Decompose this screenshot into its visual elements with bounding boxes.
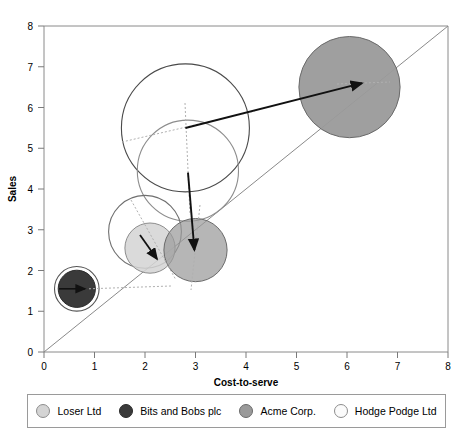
x-tick-5: 5 [294,361,300,372]
legend-label-acme-corp: Acme Corp. [260,405,315,417]
guide-bits-horizontal [89,286,171,289]
y-tick-8: 8 [27,21,33,32]
x-axis-tick-labels: 0 1 2 3 4 5 6 7 8 [41,361,451,372]
legend-swatch-circle-icon [119,404,133,418]
y-tick-7: 7 [27,62,33,73]
legend-item-loser-ltd[interactable]: Loser Ltd [36,404,101,418]
chart-canvas: 8 7 6 5 4 3 2 1 0 0 1 2 3 4 [0,0,471,438]
y-axis-title: Sales [7,175,18,202]
x-axis-title: Cost-to-serve [214,377,279,388]
legend-label-hodge-podge-ltd: Hodge Podge Ltd [355,405,437,417]
y-tick-5: 5 [27,143,33,154]
x-tick-4: 4 [243,361,249,372]
legend-swatch-circle-icon [334,404,348,418]
x-tick-1: 1 [92,361,98,372]
x-tick-2: 2 [142,361,148,372]
y-tick-1: 1 [27,306,33,317]
x-tick-0: 0 [41,361,47,372]
legend-swatch-circle-icon [36,404,50,418]
legend-item-acme-corp[interactable]: Acme Corp. [239,404,315,418]
y-axis-ticks [38,26,44,352]
legend-label-loser-ltd: Loser Ltd [57,405,101,417]
bubble-hodge-podge-lower[interactable] [137,120,238,221]
y-axis-tick-labels: 8 7 6 5 4 3 2 1 0 [27,21,33,358]
x-tick-6: 6 [344,361,350,372]
x-axis-ticks [44,352,448,358]
legend-box: Loser Ltd Bits and Bobs plc Acme Corp. H… [27,394,446,428]
y-tick-6: 6 [27,103,33,114]
y-tick-0: 0 [27,347,33,358]
legend-item-hodge-podge-ltd[interactable]: Hodge Podge Ltd [334,404,437,418]
legend-swatch-circle-icon [239,404,253,418]
bubble-chart-figure: 8 7 6 5 4 3 2 1 0 0 1 2 3 4 [0,0,471,438]
y-tick-4: 4 [27,184,33,195]
x-tick-3: 3 [193,361,199,372]
y-tick-3: 3 [27,225,33,236]
x-tick-8: 8 [445,361,451,372]
legend-label-bits-and-bobs-plc: Bits and Bobs plc [140,405,221,417]
y-tick-2: 2 [27,266,33,277]
legend-item-bits-and-bobs-plc[interactable]: Bits and Bobs plc [119,404,221,418]
x-tick-7: 7 [395,361,401,372]
